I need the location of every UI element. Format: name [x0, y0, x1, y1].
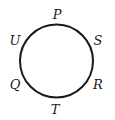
label-q: Q: [10, 77, 21, 92]
label-r: R: [92, 77, 103, 92]
label-s: S: [94, 33, 103, 48]
label-t: T: [51, 102, 61, 117]
label-p: P: [52, 7, 62, 22]
label-u: U: [10, 33, 22, 48]
circle-diagram: P S R T Q U: [0, 0, 115, 120]
circle: [20, 25, 93, 98]
